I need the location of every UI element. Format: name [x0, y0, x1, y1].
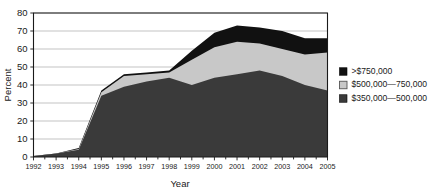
y-axis-title: Percent — [2, 68, 13, 101]
x-tick-label-1996: 1996 — [116, 162, 132, 171]
x-tick-label-1995: 1995 — [93, 162, 109, 171]
y-tick-label-40: 40 — [17, 79, 28, 90]
y-tick-label-70: 70 — [17, 25, 28, 36]
legend-label-1: >$750,000 — [352, 66, 393, 76]
x-tick-label-1997: 1997 — [139, 162, 155, 171]
x-tick-label-2000: 2000 — [206, 162, 222, 171]
legend-swatch-3 — [340, 95, 348, 103]
x-tick-label-2003: 2003 — [274, 162, 290, 171]
x-tick-label-2005: 2005 — [320, 162, 336, 171]
y-tick-label-60: 60 — [17, 43, 28, 54]
x-tick-label-1994: 1994 — [71, 162, 87, 171]
y-tick-label-20: 20 — [17, 115, 28, 126]
x-tick-label-1993: 1993 — [48, 162, 64, 171]
legend-label-2: $500,000—750,000 — [352, 79, 428, 89]
x-tick-label-1998: 1998 — [161, 162, 177, 171]
x-tick-label-2001: 2001 — [229, 162, 245, 171]
x-axis-title: Year — [170, 178, 189, 189]
y-tick-label-50: 50 — [17, 61, 28, 72]
y-tick-label-0: 0 — [22, 151, 27, 162]
y-tick-label-10: 10 — [17, 133, 28, 144]
y-tick-label-30: 30 — [17, 97, 28, 108]
x-tick-label-1999: 1999 — [184, 162, 200, 171]
legend-swatch-2 — [340, 81, 348, 89]
legend-swatch-1 — [340, 68, 348, 76]
x-tick-label-2002: 2002 — [252, 162, 268, 171]
area-chart-figure: 01020304050607080 1992199319941995199619… — [0, 0, 447, 191]
x-tick-label-2004: 2004 — [297, 162, 313, 171]
x-tick-label-1992: 1992 — [26, 162, 42, 171]
chart-svg: 01020304050607080 1992199319941995199619… — [0, 0, 447, 191]
y-axis-tick-group: 01020304050607080 — [17, 7, 34, 162]
y-tick-label-80: 80 — [17, 7, 28, 18]
legend-label-3: $350,000—500,000 — [352, 93, 428, 103]
